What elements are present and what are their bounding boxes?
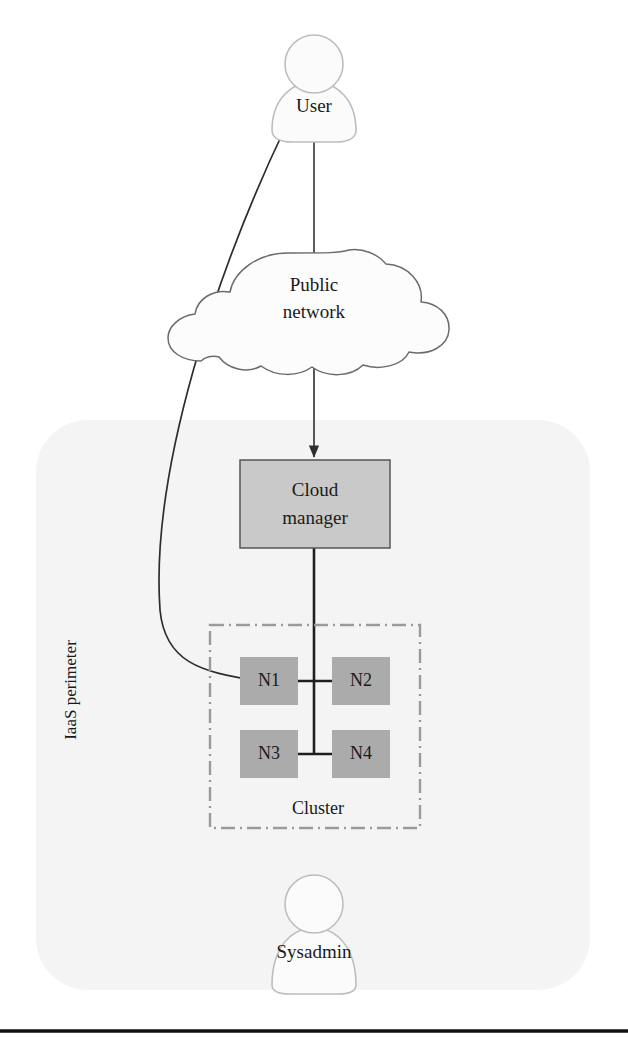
actor-user: User <box>272 35 356 142</box>
cloud-manager-rect <box>240 460 390 548</box>
cluster-label: Cluster <box>292 798 344 818</box>
node-n1-label: N1 <box>258 670 280 690</box>
cloud-manager-box: Cloud manager <box>240 460 390 548</box>
cloud-label-line1: Public <box>290 274 339 295</box>
sysadmin-label: Sysadmin <box>277 941 352 962</box>
node-n4-label: N4 <box>350 743 372 763</box>
node-n2-label: N2 <box>350 670 372 690</box>
cloud-manager-label-line1: Cloud <box>292 479 339 500</box>
cluster-node-n2: N2 <box>332 657 390 705</box>
node-n3-label: N3 <box>258 743 280 763</box>
user-label: User <box>296 95 333 116</box>
cloud-label-line2: network <box>283 301 346 322</box>
cluster-node-n1: N1 <box>240 657 298 705</box>
sysadmin-head-icon <box>285 875 343 933</box>
cluster-node-n3: N3 <box>240 730 298 778</box>
diagram-root: IaaS perimeter Public network User Cloud… <box>0 0 628 1054</box>
cloud-manager-label-line2: manager <box>282 507 348 528</box>
iaas-perimeter-label: IaaS perimeter <box>61 640 80 740</box>
cluster-node-n4: N4 <box>332 730 390 778</box>
diagram-canvas: IaaS perimeter Public network User Cloud… <box>0 0 628 1054</box>
user-head-icon <box>285 35 343 93</box>
